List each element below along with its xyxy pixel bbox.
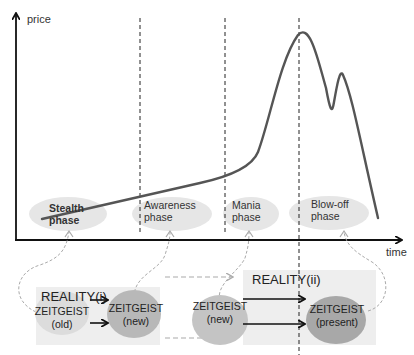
phase-label-blowoff-line1: Blow-off	[311, 198, 349, 210]
phase-label-stealth-line2: phase	[49, 214, 80, 226]
x-axis-label: time	[386, 246, 407, 258]
zeitgeist-old-line2: (old)	[51, 318, 72, 330]
zeitgeist-new-ii-line1: ZEITGEIST	[193, 300, 248, 312]
zeitgeist-present-line1: ZEITGEIST	[310, 303, 365, 315]
zeitgeist-old-line1: ZEITGEIST	[35, 305, 90, 317]
phase-label-awareness-line2: phase	[144, 211, 173, 223]
y-axis-label: price	[27, 13, 51, 25]
zeitgeist-new-i-line1: ZEITGEIST	[109, 302, 164, 314]
phase-label-blowoff-line2: phase	[311, 210, 340, 222]
bubble-phase-diagram: price time Stealth phase Awareness phase…	[0, 0, 414, 355]
phase-label-awareness-line1: Awareness	[144, 199, 196, 211]
connector-stealth-arrow	[65, 231, 73, 237]
zeitgeist-new-i-line2: (new)	[123, 315, 149, 327]
phase-label-mania-line1: Mania	[232, 199, 261, 211]
phase-label-stealth-line1: Stealth	[49, 202, 84, 214]
phase-label-mania-line2: phase	[232, 211, 261, 223]
reality-label-i: REALITY(i)	[41, 289, 107, 304]
price-curve	[42, 32, 378, 219]
zeitgeist-node-new-i	[107, 290, 161, 338]
reality-label-ii: REALITY(ii)	[252, 272, 321, 287]
zeitgeist-new-ii-line2: (new)	[207, 313, 233, 325]
zeitgeist-present-line2: (present)	[316, 316, 358, 328]
